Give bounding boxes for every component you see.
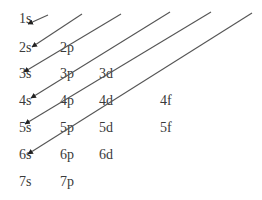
diagonal-arrow-1	[28, 15, 48, 24]
diagonal-arrow-5	[25, 12, 211, 124]
aufbau-diagram: 1s 2s 2p 3s 3p 3d 4s 4p 4d 4f 5s 5p 5d 5…	[0, 0, 262, 200]
diagonal-arrows	[0, 0, 262, 200]
diagonal-arrow-6	[28, 13, 252, 154]
